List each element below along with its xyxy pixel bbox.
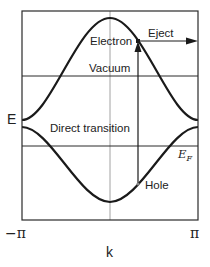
fermi-level-subscript: F bbox=[186, 154, 192, 163]
band-structure-diagram: Eject Electron Vacuum E Direct transitio… bbox=[0, 0, 210, 267]
eject-arrowhead-icon bbox=[186, 38, 198, 45]
hole-label: Hole bbox=[145, 180, 169, 192]
electron-label: Electron bbox=[90, 36, 132, 48]
x-tick-minus-pi: −π bbox=[5, 226, 26, 240]
hole-marker bbox=[136, 182, 139, 185]
vacuum-label: Vacuum bbox=[89, 63, 130, 75]
electron-marker bbox=[136, 39, 140, 43]
direct-transition-label: Direct transition bbox=[50, 123, 130, 135]
energy-axis-label: E bbox=[7, 112, 16, 126]
eject-label: Eject bbox=[148, 28, 174, 40]
k-axis-label: k bbox=[106, 245, 113, 259]
x-tick-pi: π bbox=[190, 226, 199, 240]
fermi-level-label: EF bbox=[178, 149, 192, 163]
